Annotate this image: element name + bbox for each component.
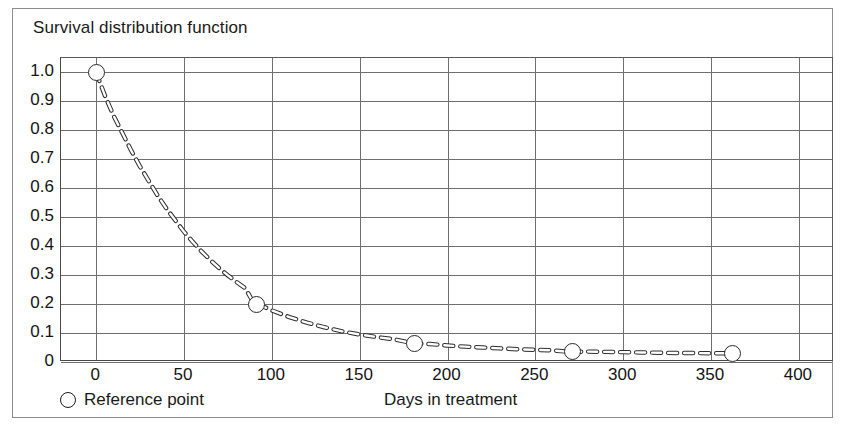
y-tick-label: 0.8 bbox=[30, 119, 54, 139]
y-tick-label: 1.0 bbox=[30, 61, 54, 81]
y-tick-label: 0.3 bbox=[30, 264, 54, 284]
y-tick-label: 0.2 bbox=[30, 293, 54, 313]
y-tick-label: 0.5 bbox=[30, 206, 54, 226]
reference-point-marker bbox=[724, 345, 741, 362]
x-tick-label: 300 bbox=[608, 365, 636, 385]
x-tick-label: 100 bbox=[257, 365, 285, 385]
y-tick-label: 0.7 bbox=[30, 148, 54, 168]
page-title: Survival distribution function bbox=[33, 18, 248, 38]
x-tick-label: 250 bbox=[520, 365, 548, 385]
x-tick-label: 400 bbox=[784, 365, 812, 385]
y-tick-label: 0.1 bbox=[30, 322, 54, 342]
x-axis-title: Days in treatment bbox=[384, 390, 517, 410]
y-tick-label: 0 bbox=[45, 351, 54, 371]
reference-point-marker bbox=[564, 343, 581, 360]
plot-area bbox=[60, 57, 833, 361]
x-tick-label: 350 bbox=[696, 365, 724, 385]
x-axis-tick-labels: 050100150200250300350400 bbox=[60, 365, 833, 389]
legend-label: Reference point bbox=[84, 390, 204, 410]
gridline-horizontal bbox=[61, 362, 832, 363]
reference-point-marker bbox=[406, 335, 423, 352]
y-tick-label: 0.6 bbox=[30, 177, 54, 197]
x-tick-label: 150 bbox=[344, 365, 372, 385]
chart-frame: Survival distribution function 00.10.20.… bbox=[12, 8, 833, 418]
y-tick-label: 0.4 bbox=[30, 235, 54, 255]
open-circle-icon bbox=[60, 392, 76, 408]
x-tick-label: 200 bbox=[432, 365, 460, 385]
legend: Reference point bbox=[60, 390, 204, 410]
reference-point-marker bbox=[248, 296, 265, 313]
survival-curve bbox=[61, 58, 834, 362]
y-axis-tick-labels: 00.10.20.30.40.50.60.70.80.91.0 bbox=[13, 57, 54, 361]
x-tick-label: 50 bbox=[174, 365, 193, 385]
figure-root: Survival distribution function 00.10.20.… bbox=[0, 0, 849, 439]
x-tick-label: 0 bbox=[90, 365, 99, 385]
y-tick-label: 0.9 bbox=[30, 90, 54, 110]
reference-point-marker bbox=[88, 64, 105, 81]
